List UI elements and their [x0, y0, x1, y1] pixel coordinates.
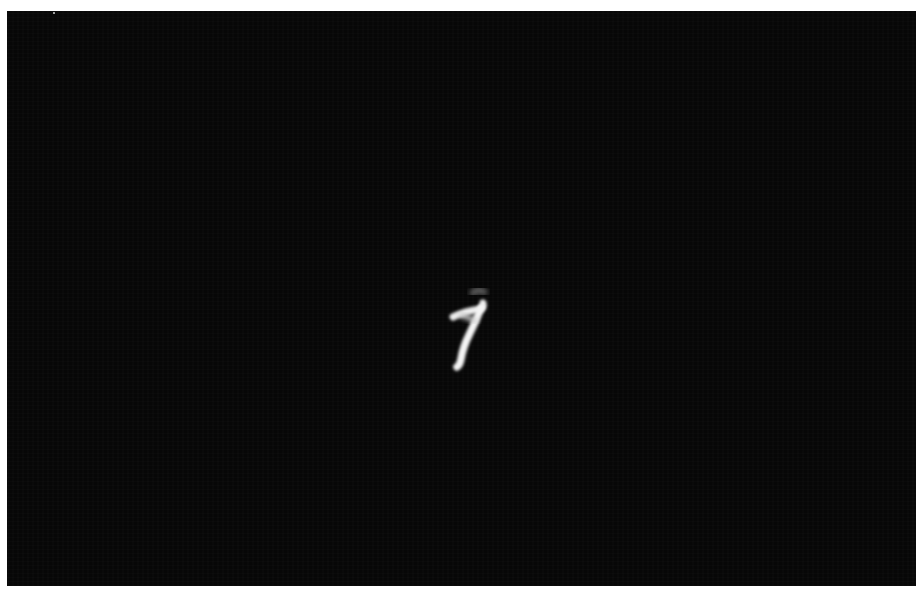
digit-seven-glyph: [435, 273, 495, 373]
image-canvas: [7, 11, 916, 586]
dust-speck: [53, 12, 55, 14]
handwritten-digit: [435, 273, 495, 373]
